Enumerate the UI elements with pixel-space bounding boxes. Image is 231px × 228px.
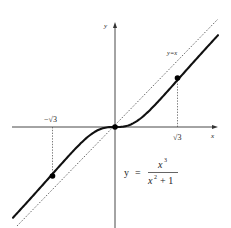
formula-lhs: y [124,167,129,178]
formula-numerator: x [157,159,163,170]
asymptote-label: y=x [166,49,177,56]
tick-label-pos-sqrt3: √3 [173,133,181,142]
x-axis-arrow-icon [212,125,218,129]
y-axis-label: y [103,22,108,30]
point-neg-sqrt3 [50,173,56,179]
tick-label-neg-sqrt3: −√3 [44,115,57,124]
formula: y = x 3 x 2 + 1 [124,157,178,186]
x-axis-label: x [210,132,215,140]
formula-denominator-base: x [147,175,153,186]
point-origin [112,124,118,130]
formula-equals: = [135,167,141,178]
function-graph: x y y=x −√3 √3 y = x 3 x 2 + 1 [0,0,231,228]
y-axis-arrow-icon [113,22,117,28]
point-pos-sqrt3 [175,75,181,81]
formula-denominator-rest: + 1 [160,175,173,186]
formula-denominator-exp: 2 [154,174,157,180]
formula-numerator-exp: 3 [164,157,167,163]
